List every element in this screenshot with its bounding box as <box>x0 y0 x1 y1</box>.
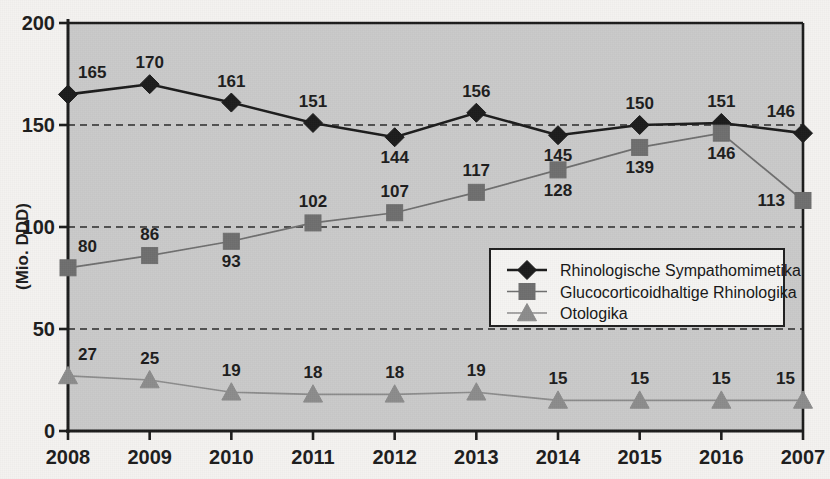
x-tick-label-2016: 2016 <box>699 446 744 468</box>
x-tick-label-2012: 2012 <box>372 446 417 468</box>
x-tick-label-2010: 2010 <box>209 446 254 468</box>
data-point-label: 165 <box>78 63 106 82</box>
y-tick-label: 200 <box>22 12 55 34</box>
data-point-label: 25 <box>140 349 159 368</box>
data-point-label: 117 <box>463 161 490 180</box>
square-marker <box>519 284 535 300</box>
data-point-label: 151 <box>707 92 735 111</box>
data-point-label: 15 <box>712 369 731 388</box>
line-chart: 050100150200 200820092010201120122013201… <box>0 0 830 479</box>
square-marker <box>713 125 729 141</box>
data-point-label: 146 <box>707 144 735 163</box>
data-point-label: 151 <box>299 92 327 111</box>
square-marker <box>305 215 321 231</box>
data-point-label: 93 <box>222 252 241 271</box>
data-point-label: 144 <box>380 148 409 167</box>
y-tick-label: 150 <box>22 114 55 136</box>
y-tick-label: 0 <box>44 420 55 442</box>
square-marker <box>387 205 403 221</box>
square-marker <box>223 233 239 249</box>
data-point-label: 27 <box>78 345 97 364</box>
x-tick-label-2009: 2009 <box>127 446 172 468</box>
legend-label[interactable]: Rhinologische Sympathomimetika <box>560 262 801 279</box>
data-point-label: 146 <box>767 102 795 121</box>
data-point-label: 113 <box>758 191 785 210</box>
data-point-label: 18 <box>385 363 404 382</box>
data-point-label: 145 <box>544 146 572 165</box>
data-point-label: 86 <box>140 225 159 244</box>
chart-legend[interactable]: Rhinologische SympathomimetikaGlucocorti… <box>490 249 801 326</box>
x-tick-label-2008: 2008 <box>46 446 91 468</box>
data-point-label: 170 <box>135 53 163 72</box>
data-point-label: 15 <box>776 369 795 388</box>
data-point-label: 102 <box>299 192 327 211</box>
legend-label[interactable]: Otologika <box>560 305 628 322</box>
data-point-label: 107 <box>380 182 408 201</box>
y-tick-label: 50 <box>33 318 55 340</box>
x-tick-label-2013: 2013 <box>454 446 499 468</box>
data-point-label: 161 <box>217 72 245 91</box>
data-point-label: 80 <box>78 237 97 256</box>
legend-label[interactable]: Glucocorticoidhaltige Rhinologika <box>560 284 797 301</box>
x-axis-tick-group: 2008200920102011201220132014201520162007 <box>46 431 826 468</box>
data-point-label: 18 <box>304 363 323 382</box>
data-point-label: 150 <box>625 94 653 113</box>
square-marker <box>632 139 648 155</box>
chart-screenshot: 050100150200 200820092010201120122013201… <box>0 0 830 479</box>
data-point-label: 19 <box>222 361 241 380</box>
data-point-label: 19 <box>467 361 486 380</box>
x-tick-label-2014: 2014 <box>536 446 581 468</box>
x-tick-label-2011: 2011 <box>291 446 334 468</box>
x-tick-label-2007: 2007 <box>781 446 826 468</box>
data-point-label: 15 <box>630 369 649 388</box>
square-marker <box>795 192 811 208</box>
x-tick-label-2015: 2015 <box>617 446 662 468</box>
square-marker <box>468 184 484 200</box>
data-point-label: 15 <box>549 369 568 388</box>
square-marker <box>60 260 76 276</box>
data-point-label: 139 <box>625 158 653 177</box>
y-axis-title: (Mio. DDD) <box>13 203 32 290</box>
square-marker <box>142 248 158 264</box>
data-point-label: 156 <box>462 82 490 101</box>
data-point-label: 128 <box>544 181 572 200</box>
